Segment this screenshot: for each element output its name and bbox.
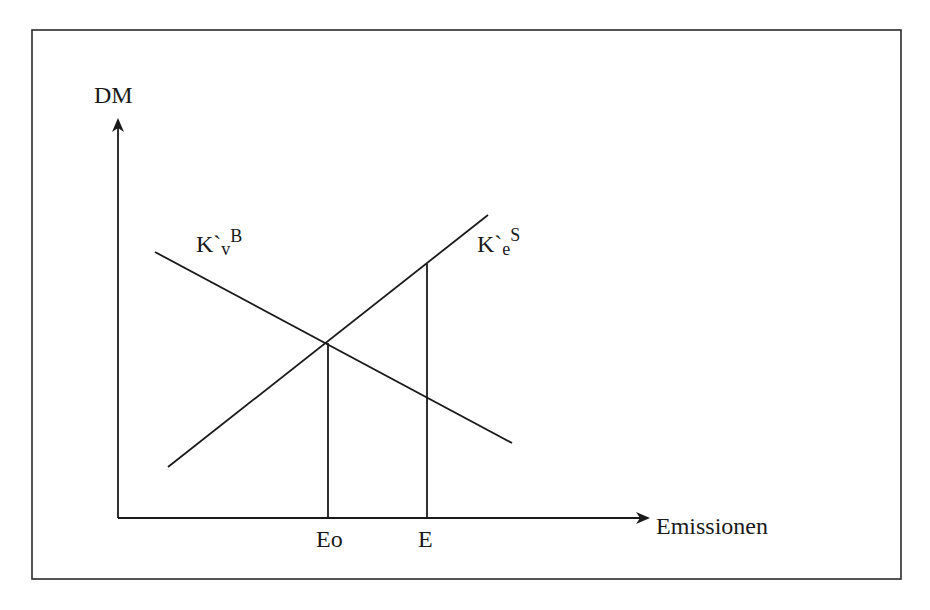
curve-label-damage-sup: S <box>510 225 520 245</box>
x-axis-label: Emissionen <box>656 513 768 539</box>
curve-label-damage: K`eS <box>477 225 520 259</box>
marker-eo-label: Eo <box>316 526 343 552</box>
curve-label-avoidance: K`vB <box>196 226 242 259</box>
curve-label-damage-main: K` <box>477 231 502 257</box>
marker-e-label: E <box>418 526 433 552</box>
curve-label-avoidance-sub: v <box>221 239 230 259</box>
curve-label-avoidance-sup: B <box>230 226 242 246</box>
y-axis-label: DM <box>94 82 133 108</box>
curve-label-avoidance-main: K` <box>196 231 221 257</box>
curve-marginal-avoidance-cost <box>155 252 512 443</box>
diagram-canvas: DM Emissionen K`vB K`eS Eo E <box>0 0 930 610</box>
diagram-frame <box>32 30 901 579</box>
curve-label-damage-sub: e <box>502 239 510 259</box>
diagram-svg: DM Emissionen K`vB K`eS Eo E <box>0 0 930 610</box>
